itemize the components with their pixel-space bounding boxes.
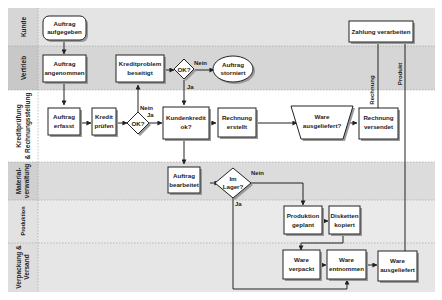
lane-label-kredit-2: & Rechnungsstellung xyxy=(24,93,32,160)
svg-text:Im: Im xyxy=(229,175,237,182)
svg-text:storniert: storniert xyxy=(220,69,245,76)
node-disketten-kopiert: Disketten kopiert xyxy=(329,206,362,236)
svg-text:Ware: Ware xyxy=(339,256,354,263)
node-zahlung-verarbeiten: Zahlung verarbeiten xyxy=(349,21,415,44)
svg-text:geplant: geplant xyxy=(292,221,314,228)
svg-text:Auftrag: Auftrag xyxy=(222,61,244,68)
svg-text:Disketten: Disketten xyxy=(331,212,359,219)
node-rechnung-versendet: Rechnung versendet xyxy=(359,108,400,141)
edge-label-ok1-nein: Nein xyxy=(194,60,207,66)
svg-text:Auftrag: Auftrag xyxy=(54,60,76,67)
node-auftrag-erfasst: Auftrag erfasst xyxy=(48,108,82,137)
svg-text:verpackt: verpackt xyxy=(289,265,314,272)
lane-label-kunde: Kunde xyxy=(20,17,27,38)
svg-text:Auftrag: Auftrag xyxy=(53,113,75,120)
svg-text:Ware: Ware xyxy=(315,113,330,120)
lane-label-verpackung-2: Versand xyxy=(23,254,30,279)
svg-text:kopiert: kopiert xyxy=(334,221,355,228)
node-kundenkredit: Kundenkredit ok? xyxy=(163,107,211,141)
lane-label-produktion: Produktion xyxy=(20,206,26,236)
svg-text:Kredit: Kredit xyxy=(95,113,113,120)
lane-label-material-2: verwaltung xyxy=(23,164,31,198)
node-ware-verpackt: Ware verpackt xyxy=(283,250,322,281)
swimlane-diagram: Kunde Vertrieb Kreditprüfung & Rechnungs… xyxy=(0,0,442,300)
svg-text:beseitigt: beseitigt xyxy=(127,69,152,76)
svg-text:Zahlung verarbeiten: Zahlung verarbeiten xyxy=(351,28,410,35)
svg-text:ausgeliefert?: ausgeliefert? xyxy=(303,122,342,129)
lane-label-kredit-1: Kreditprüfung xyxy=(15,104,23,147)
node-ware-ausgeliefert-question: Ware ausgeliefert? xyxy=(291,106,355,141)
svg-text:Lager?: Lager? xyxy=(223,183,244,190)
svg-text:Produktion: Produktion xyxy=(287,212,320,219)
node-ware-ausgeliefert: Ware ausgeliefert xyxy=(378,251,419,283)
svg-text:entnommen: entnommen xyxy=(329,265,364,272)
lane-label-vertrieb: Vertrieb xyxy=(20,56,27,80)
edge-label-ok2-nein: Nein xyxy=(140,105,153,111)
svg-text:bearbeitet: bearbeitet xyxy=(169,181,199,188)
lane-verpackung: Verpackung & Versand xyxy=(8,243,435,292)
svg-text:angenommen: angenommen xyxy=(44,69,84,76)
svg-text:prüfen: prüfen xyxy=(94,122,113,129)
node-auftrag-aufgegeben: Auftrag aufgegeben xyxy=(43,16,88,42)
svg-text:Kundenkredit: Kundenkredit xyxy=(166,114,206,121)
svg-text:Auftrag: Auftrag xyxy=(173,172,195,179)
svg-text:Auftrag: Auftrag xyxy=(54,20,76,27)
node-produktion-geplant: Produktion geplant xyxy=(284,206,324,236)
svg-text:erstellt: erstellt xyxy=(227,123,247,130)
svg-text:Kreditproblem: Kreditproblem xyxy=(119,60,162,67)
svg-text:Ware: Ware xyxy=(390,257,405,264)
svg-text:aufgegeben: aufgegeben xyxy=(47,28,82,35)
node-rechnung-erstellt: Rechnung erstellt xyxy=(218,108,258,139)
svg-text:Rechnung: Rechnung xyxy=(222,114,252,121)
edge-label-rechnung: Rechnung xyxy=(369,75,375,105)
edge-label-lager-nein: Nein xyxy=(251,170,264,176)
node-kreditproblem-beseitigt: Kreditproblem beseitigt xyxy=(116,55,166,84)
lane-label-verpackung-1: Verpackung & xyxy=(15,245,23,289)
node-auftrag-angenommen: Auftrag angenommen xyxy=(43,55,88,84)
edge-label-produkt: Produkt xyxy=(397,63,403,86)
lane-label-material-1: Material- xyxy=(15,168,22,195)
svg-text:OK?: OK? xyxy=(131,120,144,127)
node-kredit-pruefen: Kredit prüfen xyxy=(92,108,118,137)
svg-text:Ware: Ware xyxy=(294,256,309,263)
edge-label-lager-ja: Ja xyxy=(235,201,242,207)
svg-text:Rechnung: Rechnung xyxy=(363,114,393,121)
edge-label-ok1-ja: Ja xyxy=(187,84,194,90)
svg-text:OK?: OK? xyxy=(177,66,190,73)
edge-label-ok2-ja: Ja xyxy=(147,112,154,118)
svg-text:versendet: versendet xyxy=(364,123,393,130)
svg-text:ok?: ok? xyxy=(180,123,191,130)
svg-text:erfasst: erfasst xyxy=(54,122,74,129)
lane-produktion: Produktion xyxy=(8,200,435,243)
node-ware-entnommen: Ware entnommen xyxy=(327,250,368,281)
svg-text:ausgeliefert: ausgeliefert xyxy=(380,266,415,273)
node-auftrag-bearbeitet: Auftrag bearbeitet xyxy=(168,167,202,195)
